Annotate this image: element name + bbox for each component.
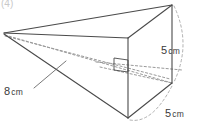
hidden-edge-apex-rear [5,35,172,83]
hidden-edge-apex-axis [5,36,170,79]
edge-apex-top-front [4,33,128,38]
dimension-label-length: 8cm [4,82,23,98]
edge-apex-bottom-front [4,34,128,118]
edge-apex-top-rear [4,5,172,33]
hidden-edge-base-rear [100,67,172,83]
dimension-label-depth: 5cm [165,104,184,120]
geometry-figure: (4) [0,0,200,129]
height-value: 5 [161,44,167,56]
hidden-edges [5,35,182,83]
edge-top-rear-top-front [128,5,172,38]
length-unit: cm [11,87,23,97]
visible-edges [4,5,172,118]
depth-value: 5 [165,107,171,119]
dimension-label-height: 5cm [161,41,180,57]
depth-unit: cm [172,109,184,119]
length-value: 8 [4,85,10,97]
height-unit: cm [168,46,180,56]
